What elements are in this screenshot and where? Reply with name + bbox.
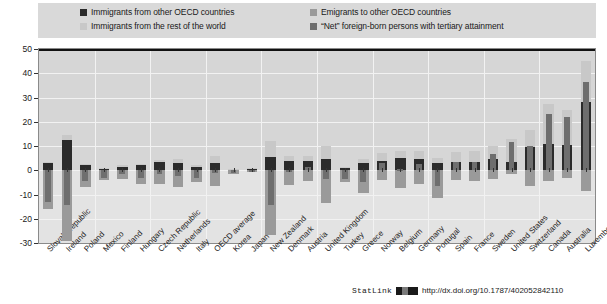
bar-segment-immigrants-row: [191, 165, 201, 167]
x-tick-mark: [567, 168, 568, 172]
bar-group: [62, 49, 72, 243]
bar-segment-emigrants-oecd: [284, 170, 294, 185]
bar-segment-immigrants-row: [210, 156, 220, 163]
bar-segment-immigrants-row: [395, 151, 405, 158]
bar-group: [210, 49, 220, 243]
bar-segment-emigrants-oecd: [395, 170, 405, 188]
y-tick-label: 10: [2, 142, 32, 151]
x-tick-mark: [326, 168, 327, 172]
bar-group: [395, 49, 405, 243]
x-tick-mark: [197, 168, 198, 172]
bar-group: [581, 49, 591, 243]
x-tick-mark: [586, 168, 587, 172]
bar-group: [543, 49, 553, 243]
legend-item-immigrants-row: Immigrants from the rest of the world: [80, 22, 226, 31]
gridline-v: [150, 49, 151, 243]
x-tick-mark: [122, 168, 123, 172]
bar-group: [432, 49, 442, 243]
y-tick-label: 30: [2, 94, 32, 103]
bar-group: [154, 49, 164, 243]
bar-group: [228, 49, 238, 243]
bar-segment-immigrants-row: [469, 151, 479, 162]
plot-area: [38, 48, 596, 244]
bar-group: [377, 49, 387, 243]
x-tick-mark: [159, 168, 160, 172]
chart-figure: Immigrants from other OECD countries Imm…: [0, 0, 607, 304]
bar-group: [265, 49, 275, 243]
x-tick-mark: [437, 168, 438, 172]
bar-segment-net-foreign-born: [583, 82, 589, 171]
bar-group: [173, 49, 183, 243]
bar-segment-immigrants-row: [377, 153, 387, 160]
statlink-footer: StatLink http://dx.doi.org/10.1787/40205…: [352, 286, 563, 295]
bar-group: [43, 49, 53, 243]
bar-segment-immigrants-row: [414, 151, 424, 159]
legend-swatch-emigrants-oecd: [310, 9, 317, 16]
bar-segment-net-foreign-born: [435, 170, 441, 186]
legend-item-emigrants-oecd: Emigrants to other OECD countries: [310, 8, 451, 17]
legend-swatch-immigrants-oecd: [80, 9, 87, 16]
bar-group: [358, 49, 368, 243]
bar-segment-net-foreign-born: [527, 146, 533, 170]
bar-segment-immigrants-row: [432, 158, 442, 163]
x-tick-mark: [289, 168, 290, 172]
x-tick-mark: [308, 168, 309, 172]
x-tick-mark: [400, 168, 401, 172]
bar-segment-immigrants-row: [321, 146, 331, 159]
bar-segment-immigrants-row: [43, 162, 53, 163]
bar-group: [340, 49, 350, 243]
bar-group: [247, 49, 257, 243]
x-tick-mark: [512, 168, 513, 172]
legend-swatch-immigrants-row: [80, 23, 87, 30]
y-tick-label: -20: [2, 215, 32, 224]
bar-group: [506, 49, 516, 243]
bar-segment-immigrants-row: [303, 156, 313, 161]
bar-segment-immigrants-oecd: [62, 140, 72, 170]
gridline-v: [95, 49, 96, 243]
y-tick-label: 50: [2, 45, 32, 54]
gridline-v: [373, 49, 374, 243]
statlink-url[interactable]: http://dx.doi.org/10.1787/402052842110: [422, 286, 563, 295]
bar-segment-net-foreign-born: [45, 170, 51, 202]
statlink-barcode-icon: [396, 287, 418, 295]
legend-swatch-net-foreign-born: [310, 23, 317, 30]
y-tick-label: -30: [2, 239, 32, 248]
bar-segment-immigrants-row: [451, 152, 461, 162]
x-tick-mark: [493, 168, 494, 172]
y-tick-label: 0: [2, 166, 32, 175]
x-tick-mark: [271, 168, 272, 172]
gridline-v: [206, 49, 207, 243]
legend-label-net-foreign-born: “Net” foreign-born persons with tertiary…: [321, 22, 503, 31]
x-tick-mark: [419, 168, 420, 172]
zero-axis-line: [39, 49, 595, 51]
x-tick-mark: [382, 168, 383, 172]
bar-segment-immigrants-row: [117, 165, 127, 167]
legend-label-immigrants-oecd: Immigrants from other OECD countries: [91, 8, 234, 17]
bar-segment-immigrants-row: [136, 164, 146, 165]
legend-item-net-foreign-born: “Net” foreign-born persons with tertiary…: [310, 22, 503, 31]
bar-segment-net-foreign-born: [64, 170, 70, 205]
x-tick-mark: [252, 168, 253, 172]
bar-group: [303, 49, 313, 243]
bar-group: [80, 49, 90, 243]
bar-group: [525, 49, 535, 243]
bar-segment-immigrants-row: [284, 156, 294, 161]
gridline-v: [317, 49, 318, 243]
legend-item-immigrants-oecd: Immigrants from other OECD countries: [80, 8, 234, 17]
legend-label-immigrants-row: Immigrants from the rest of the world: [91, 22, 226, 31]
x-tick-mark: [141, 168, 142, 172]
bar-segment-net-foreign-born: [546, 114, 552, 170]
bar-group: [451, 49, 461, 243]
x-tick-mark: [456, 168, 457, 172]
x-tick-mark: [549, 168, 550, 172]
gridline-v: [484, 49, 485, 243]
bar-segment-immigrants-row: [80, 164, 90, 165]
gridline-v: [539, 49, 540, 243]
bar-group: [562, 49, 572, 243]
x-tick-mark: [345, 168, 346, 172]
bar-segment-net-foreign-born: [509, 142, 515, 170]
bar-group: [136, 49, 146, 243]
legend-label-emigrants-oecd: Emigrants to other OECD countries: [321, 8, 451, 17]
x-tick-mark: [178, 168, 179, 172]
bar-group: [414, 49, 424, 243]
